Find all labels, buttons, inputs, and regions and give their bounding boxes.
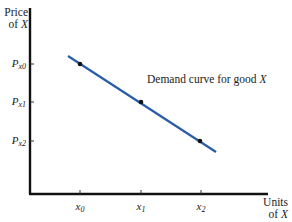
x-axis-label-line1: Units <box>263 196 288 208</box>
point-x1 <box>139 100 144 105</box>
x-tick-sub: 0 <box>80 205 84 214</box>
x-axis-label: Units of X <box>263 196 288 220</box>
y-axis-label-var: X <box>21 18 28 30</box>
point-x0 <box>78 62 83 67</box>
chart-canvas <box>0 0 292 222</box>
y-axis-label-prefix: of <box>9 18 21 30</box>
x-axis-label-var: X <box>281 208 288 220</box>
y-tick-sub: x0 <box>18 62 26 71</box>
x-axis-label-line2: of X <box>263 208 288 220</box>
point-x2 <box>198 139 203 144</box>
curve-label-var: X <box>259 73 266 85</box>
y-axis-label-line1: Price <box>2 6 28 18</box>
curve-label-text: Demand curve for good <box>147 73 259 85</box>
x-tick-label-x0: x0 <box>70 200 90 216</box>
y-axis-label-line2: of X <box>2 18 28 30</box>
y-axis-label: Price of X <box>2 6 28 30</box>
x-tick-sub: 1 <box>141 205 145 214</box>
x-axis-label-prefix: of <box>269 208 281 220</box>
y-tick-sub: x1 <box>18 100 26 109</box>
x-tick-sub: 2 <box>201 205 205 214</box>
y-tick-sub: x2 <box>18 139 26 148</box>
x-tick-label-x2: x2 <box>191 200 211 216</box>
y-tick-label-px2: Px2 <box>4 134 26 150</box>
y-tick-label-px0: Px0 <box>4 57 26 73</box>
x-tick-label-x1: x1 <box>131 200 151 216</box>
demand-curve-label: Demand curve for good X <box>147 73 266 85</box>
y-tick-label-px1: Px1 <box>4 95 26 111</box>
